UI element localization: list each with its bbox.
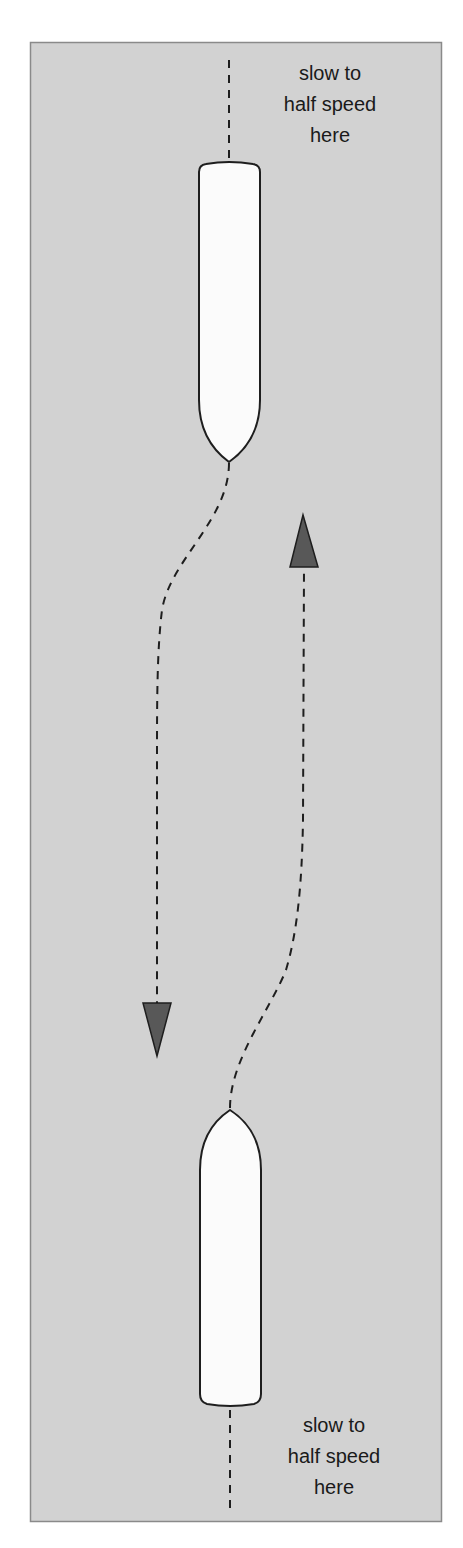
top-slow-label: slow to half speed here	[250, 58, 410, 151]
top-label-line-2: half speed	[250, 89, 410, 120]
bottom-label-line-1: slow to	[254, 1410, 414, 1441]
lower-boat-hull	[200, 1110, 261, 1406]
passing-diagram: slow to half speed here slow to half spe…	[0, 0, 463, 1548]
diagram-canvas	[0, 0, 463, 1548]
top-label-line-3: here	[250, 120, 410, 151]
bottom-slow-label: slow to half speed here	[254, 1410, 414, 1503]
bottom-label-line-3: here	[254, 1472, 414, 1503]
top-label-line-1: slow to	[250, 58, 410, 89]
upper-boat-hull	[199, 162, 260, 462]
bottom-label-line-2: half speed	[254, 1441, 414, 1472]
